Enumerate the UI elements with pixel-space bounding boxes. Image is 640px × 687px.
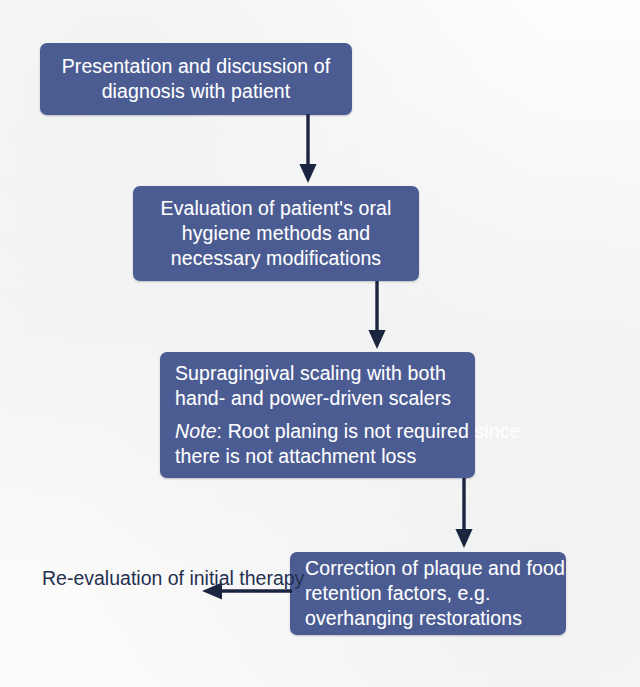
note-keyword: Note bbox=[175, 420, 217, 442]
node-scaling-line-2: hand- and power-driven scalers bbox=[175, 386, 451, 411]
node-oral-hygiene-line-1: Evaluation of patient's oral bbox=[161, 196, 392, 221]
node-scaling-note-text-1: Root planing is not required since bbox=[222, 420, 520, 442]
node-oral-hygiene: Evaluation of patient's oral hygiene met… bbox=[133, 186, 419, 281]
node-presentation-line-2: diagnosis with patient bbox=[102, 79, 291, 104]
node-presentation-line-1: Presentation and discussion of bbox=[62, 54, 331, 79]
node-scaling-note-line-2: there is not attachment loss bbox=[175, 444, 520, 469]
node-correction-line-2: retention factors, e.g. bbox=[305, 581, 490, 606]
node-correction: Correction of plaque and food retention … bbox=[290, 552, 566, 635]
label-re-evaluation-line-2: initial therapy bbox=[189, 567, 304, 589]
node-presentation: Presentation and discussion of diagnosis… bbox=[40, 43, 352, 115]
label-re-evaluation-line-1: Re-evaluation of bbox=[42, 567, 184, 589]
arrow-1-down bbox=[296, 114, 320, 184]
flowchart-canvas: Presentation and discussion of diagnosis… bbox=[0, 0, 640, 687]
node-oral-hygiene-line-2: hygiene methods and bbox=[182, 221, 370, 246]
node-scaling-note-line-1: Note: Root planing is not required since bbox=[175, 419, 520, 444]
node-scaling-note: Note: Root planing is not required since… bbox=[175, 419, 520, 469]
label-re-evaluation: Re-evaluation of initial therapy bbox=[42, 566, 194, 591]
arrow-3-down bbox=[452, 478, 476, 549]
node-scaling-line-1: Supragingival scaling with both bbox=[175, 361, 451, 386]
arrow-2-down bbox=[365, 281, 389, 350]
node-correction-line-1: Correction of plaque and food bbox=[305, 556, 565, 581]
node-oral-hygiene-line-3: necessary modifications bbox=[171, 246, 381, 271]
node-scaling: Supragingival scaling with both hand- an… bbox=[160, 352, 475, 478]
node-correction-line-3: overhanging restorations bbox=[305, 606, 522, 631]
node-scaling-paragraph-1: Supragingival scaling with both hand- an… bbox=[175, 361, 451, 411]
